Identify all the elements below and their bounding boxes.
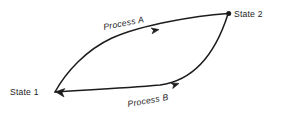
process-b-label: Process B [127, 92, 170, 109]
state-2-point [226, 11, 231, 16]
process-a-curve [55, 14, 228, 93]
state-2-label: State 2 [234, 9, 263, 19]
diagram-canvas: State 1 State 2 Process A Process B [0, 0, 282, 113]
process-a-arrowhead [151, 27, 159, 34]
process-diagram-figure: State 1 State 2 Process A Process B [0, 0, 282, 113]
process-b-curve [55, 14, 228, 92]
state-1-label: State 1 [10, 87, 39, 97]
